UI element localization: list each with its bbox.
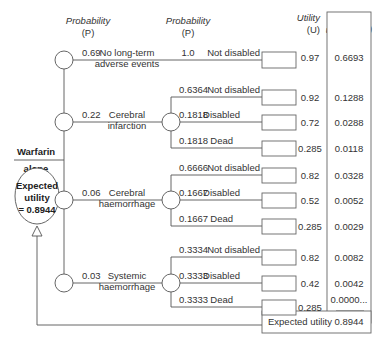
outcome-box — [262, 300, 296, 315]
outcome-utility: 0.97 — [301, 52, 320, 63]
outcome-utility: 0.285 — [298, 302, 322, 313]
outcome-weighted: 0.0052 — [334, 195, 363, 206]
chance-node — [162, 113, 180, 131]
expected-utility-total-label: Expected utility — [268, 316, 332, 327]
branch-no-adverse-events: 0.69 No long-term adverse events 1.0 Not… — [55, 47, 364, 69]
outcome-box — [262, 168, 296, 183]
branch-label-line1: Cerebral — [109, 109, 145, 120]
outcome-weighted: 0.6693 — [334, 52, 363, 63]
outcome-box — [262, 90, 296, 105]
branch-prob: 0.03 — [82, 270, 101, 281]
outcome-box — [262, 141, 296, 156]
outcome-box — [262, 219, 296, 234]
outcome-weighted: 0.0042 — [334, 278, 363, 289]
outcome-label: Not disabled — [207, 47, 260, 58]
outcome-utility: 0.52 — [301, 195, 320, 206]
branch-prob: 0.22 — [82, 109, 101, 120]
outcome-label: Not disabled — [207, 244, 260, 255]
outcome-label: Dead — [210, 213, 233, 224]
outcome-utility: 0.285 — [298, 221, 322, 232]
outcome-label: Disabled — [203, 187, 240, 198]
outcome-weighted: 0.0082 — [334, 252, 363, 263]
branch-systemic-haemorrhage: 0.03 Systemic haemorrhage 0.3334 Not dis… — [55, 244, 367, 315]
branch-cerebral-infarction: 0.22 Cerebral infarction 0.6364 Not disa… — [55, 84, 364, 156]
chance-node — [162, 274, 180, 292]
outcome-weighted: 0.0288 — [334, 117, 363, 128]
outcome-weighted: 0.0000... — [331, 294, 368, 305]
branch-label-line2: infarction — [108, 120, 147, 131]
branch-label-line1: Systemic — [108, 270, 147, 281]
decision-tree-diagram: Probability (P) Probability (P) Utility … — [0, 0, 381, 342]
outcome-box — [262, 250, 296, 265]
arrow-up-icon — [32, 226, 42, 236]
header-probability-2-sub: (P) — [182, 27, 195, 38]
chance-node — [55, 191, 73, 209]
chance-node — [162, 191, 180, 209]
outcome-label: Not disabled — [207, 84, 260, 95]
outcome-utility: 0.92 — [301, 92, 320, 103]
outcome-label: Dead — [210, 294, 233, 305]
outcome-prob: 0.1818 — [179, 135, 208, 146]
branch-cerebral-haemorrhage: 0.06 Cerebral haemorrhage 0.6666 Not dis… — [55, 162, 364, 234]
outcome-weighted: 0.1288 — [334, 92, 363, 103]
outcome-box — [262, 193, 296, 208]
chance-node — [55, 113, 73, 131]
outcome-label: Disabled — [203, 270, 240, 281]
outcome-prob: 0.3334 — [179, 244, 208, 255]
branch-label-line2: haemorrhage — [99, 198, 156, 209]
outcome-label: Disabled — [203, 109, 240, 120]
outcome-utility: 0.42 — [301, 278, 320, 289]
expected-utility-line1: Expected — [16, 180, 58, 191]
branch-label-line2: haemorrhage — [99, 281, 156, 292]
outcome-weighted: 0.0118 — [335, 143, 363, 154]
outcome-utility: 0.82 — [301, 170, 320, 181]
branch-label-line1: Cerebral — [109, 187, 145, 198]
outcome-utility: 0.285 — [298, 143, 322, 154]
header-utility: Utility — [297, 12, 321, 23]
outcome-box — [262, 115, 296, 130]
expected-utility-line3: = 0.8944 — [18, 204, 56, 215]
outcome-prob: 1.0 — [181, 47, 194, 58]
branch-prob: 0.06 — [82, 187, 101, 198]
outcome-prob: 0.6666 — [179, 162, 208, 173]
outcome-utility: 0.72 — [301, 117, 320, 128]
header-probability-1-sub: (P) — [82, 27, 95, 38]
chance-node — [55, 51, 73, 69]
outcome-prob: 0.1667 — [179, 213, 208, 224]
outcome-box — [262, 276, 296, 291]
header-probability-1: Probability — [66, 15, 112, 26]
expected-utility-line2: utility — [24, 192, 50, 203]
expected-utility-total-value: 0.8944 — [334, 316, 363, 327]
outcome-prob: 0.3333 — [179, 294, 208, 305]
outcome-utility: 0.82 — [301, 252, 320, 263]
outcome-weighted: 0.0029 — [334, 221, 363, 232]
branch-label-line1: No long-term — [100, 47, 155, 58]
outcome-label: Not disabled — [207, 162, 260, 173]
branch-label-line2: adverse events — [95, 58, 160, 69]
outcome-label: Dead — [210, 135, 233, 146]
outcome-box — [262, 52, 296, 68]
branch-prob: 0.69 — [82, 47, 101, 58]
column-headers: Probability (P) Probability (P) Utility … — [66, 12, 372, 38]
header-utility-sub: (U) — [307, 24, 320, 35]
outcome-prob: 0.6364 — [179, 84, 208, 95]
chance-node — [55, 274, 73, 292]
header-probability-2: Probability — [166, 15, 212, 26]
decision-label-line1: Warfarin — [17, 146, 55, 157]
outcome-weighted: 0.0328 — [334, 170, 363, 181]
